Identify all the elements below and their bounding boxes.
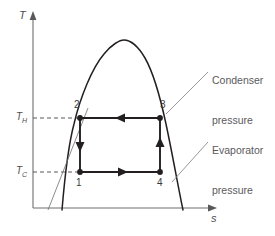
temperature-axis-arrowhead bbox=[30, 11, 37, 20]
state-point-label-1: 1 bbox=[76, 177, 82, 189]
annotation-leader-lines bbox=[166, 72, 208, 182]
carnot-cycle-path bbox=[80, 118, 160, 172]
arrowhead-2-to-1 bbox=[76, 142, 85, 152]
condenser-leader-line bbox=[166, 72, 208, 114]
arrowhead-4-to-3 bbox=[156, 137, 165, 147]
state-point-nodes bbox=[77, 115, 163, 175]
tc-label: TC bbox=[16, 165, 27, 179]
arrowhead-3-to-2 bbox=[115, 114, 125, 123]
state-point-node-1 bbox=[77, 169, 83, 175]
th-subscript: H bbox=[22, 117, 27, 124]
state-point-label-4: 4 bbox=[157, 177, 163, 189]
axes-group bbox=[30, 11, 217, 211]
left-isobar-line bbox=[48, 108, 88, 210]
isobar-guide-lines bbox=[48, 108, 88, 210]
condenser-annotation-line1: Condenser bbox=[212, 74, 263, 87]
state-point-label-3: 3 bbox=[160, 99, 166, 111]
temperature-axis-label: T bbox=[19, 9, 26, 22]
ts-diagram-figure: T s TH TC 2 3 1 4 Condenser pressure Eva… bbox=[0, 0, 275, 236]
tc-subscript: C bbox=[22, 171, 27, 178]
temperature-reference-lines bbox=[33, 118, 79, 172]
state-point-label-2: 2 bbox=[74, 99, 80, 111]
arrowhead-1-to-4 bbox=[118, 168, 128, 177]
state-point-node-4 bbox=[157, 169, 163, 175]
evaporator-pressure-annotation: Evaporator pressure bbox=[212, 118, 263, 223]
th-label: TH bbox=[16, 111, 27, 125]
evaporator-annotation-line2: pressure bbox=[212, 184, 263, 197]
evaporator-leader-line bbox=[172, 142, 208, 182]
state-point-node-2 bbox=[77, 115, 83, 121]
evaporator-annotation-line1: Evaporator bbox=[212, 144, 263, 157]
state-point-node-3 bbox=[157, 115, 163, 121]
process-direction-arrowheads bbox=[76, 114, 165, 177]
